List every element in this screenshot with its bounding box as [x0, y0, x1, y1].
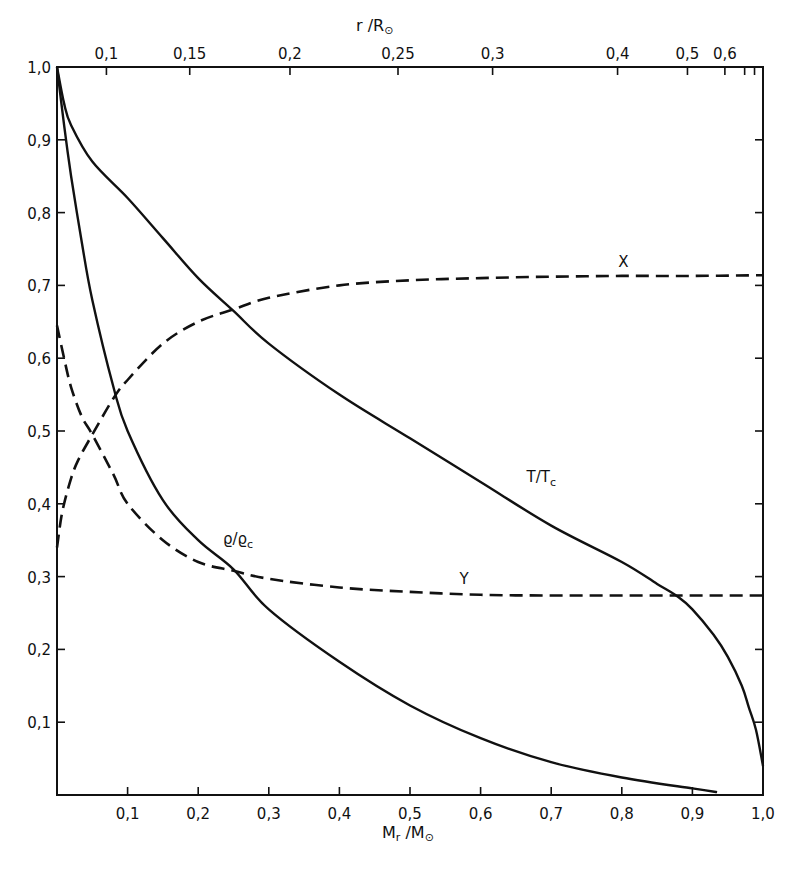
x-axis-title-main: M: [382, 823, 396, 842]
x-tick-label: 0,2: [186, 805, 210, 823]
series-label-x: X: [618, 253, 628, 271]
y-tick-label: 0,8: [27, 205, 51, 223]
series-label-t-tc: T/Tc: [525, 468, 555, 489]
x-tick-label: 0,8: [610, 805, 634, 823]
curves: [57, 67, 763, 792]
x-tick-label: 0,9: [680, 805, 704, 823]
top-tick-label: 0,4: [606, 45, 630, 63]
top-tick-label: 0,2: [278, 45, 302, 63]
series-line-x: [57, 275, 763, 547]
series-line-t-tc: [57, 67, 763, 766]
y-axis-left: 0,10,20,30,40,50,60,70,80,91,0: [27, 59, 763, 732]
y-tick-label: 0,7: [27, 277, 51, 295]
plot-frame: [57, 67, 763, 795]
series-line-y: [57, 325, 763, 595]
x-axis-title: Mr /M⊙: [382, 823, 434, 844]
x-axis-title-rest: /M: [400, 823, 424, 842]
top-axis-title-main: r /R: [356, 16, 384, 35]
top-tick-label: 0,6: [713, 45, 737, 63]
y-tick-label: 0,9: [27, 132, 51, 150]
y-tick-label: 0,5: [27, 423, 51, 441]
x-tick-label: 0,4: [327, 805, 351, 823]
top-axis-title: r /R⊙: [356, 16, 393, 37]
top-tick-label: 0,1: [94, 45, 118, 63]
y-tick-label: 0,2: [27, 641, 51, 659]
curve-labels: T/Tcϱ/ϱcXY: [223, 253, 629, 588]
top-tick-label: 0,3: [481, 45, 505, 63]
top-tick-label: 0,5: [676, 45, 700, 63]
series-line-rho-rho-c: [57, 67, 717, 792]
series-label-rho-rho-c: ϱ/ϱc: [223, 530, 253, 551]
x-tick-label: 0,3: [257, 805, 281, 823]
x-tick-label: 1,0: [751, 805, 775, 823]
y-tick-label: 0,6: [27, 350, 51, 368]
x-tick-label: 0,5: [398, 805, 422, 823]
top-tick-label: 0,15: [173, 45, 206, 63]
y-tick-label: 0,3: [27, 569, 51, 587]
top-axis-title-sun: ⊙: [384, 24, 393, 37]
y-tick-label: 0,1: [27, 714, 51, 732]
y-tick-label: 0,4: [27, 496, 51, 514]
x-axis-bottom: 0,10,20,30,40,50,60,70,80,91,0: [116, 787, 775, 823]
x-tick-label: 0,1: [116, 805, 140, 823]
x-tick-label: 0,6: [469, 805, 493, 823]
series-label-y: Y: [458, 570, 469, 588]
chart: 0,10,20,30,40,50,60,70,80,91,0 0,10,20,3…: [0, 0, 791, 870]
y-tick-label: 1,0: [27, 59, 51, 77]
x-tick-label: 0,7: [539, 805, 563, 823]
x-axis-top: 0,10,150,20,250,30,40,50,6: [94, 45, 754, 75]
top-tick-label: 0,25: [381, 45, 414, 63]
x-axis-title-sun: ⊙: [425, 831, 434, 844]
